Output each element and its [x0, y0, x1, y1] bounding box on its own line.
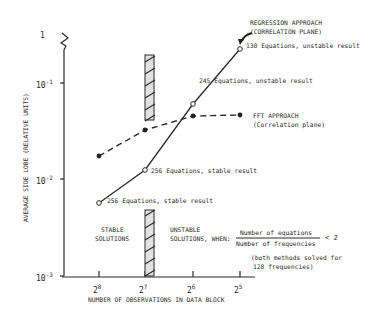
y-tick-1e-3: 10-3	[36, 271, 53, 283]
note-line-2: 128 frequencies)	[253, 263, 314, 271]
note-line-1: (both methods solved for	[251, 254, 342, 261]
fraction-comparison: < 2	[325, 234, 338, 242]
unstable-label-1: UNSTABLE	[170, 226, 201, 233]
stable-label-1: STABLE	[101, 226, 124, 233]
unstable-label-2: SOLUTIONS, WHEN:	[170, 235, 231, 242]
x-tick-2-5: 25	[234, 283, 243, 295]
annotation-130: 130 Equations, unstable result	[246, 42, 360, 50]
y-tick-1e-2: 10-2	[36, 174, 53, 186]
annotation-256-a: 256 Equations, stable result	[151, 167, 257, 175]
y-tick-1e-1: 10-1	[36, 78, 53, 90]
stable-label-2: SOLUTIONS	[95, 235, 129, 242]
fft-label-1: FFT APPROACH	[253, 112, 299, 119]
x-axis	[62, 271, 255, 277]
fft-label-2: (Correlation plane)	[253, 121, 325, 129]
x-tick-2-8: 28	[93, 283, 102, 295]
series-regression	[97, 47, 243, 206]
chart: 1 10-1 10-2 10-3 28 27 26 25 NUMBER OF O…	[0, 0, 380, 319]
x-tick-2-7: 27	[139, 283, 148, 295]
x-axis-label: NUMBER OF OBSERVATIONS IN DATA BLOCK	[88, 296, 225, 303]
regression-label-1: REGRESSION APPROACH	[250, 19, 322, 26]
annotation-256-b: 256 Equations, stable result	[107, 197, 213, 205]
fraction-denominator: Number of frequencies	[236, 240, 316, 248]
regression-label-2: (CORRELATION PLANE)	[250, 28, 322, 35]
y-axis-label: AVERAGE SIDE LOBE (RELATIVE UNITS)	[22, 93, 29, 222]
fraction-numerator: Number of equations	[240, 229, 312, 237]
boundary-hatch-lower	[145, 210, 155, 276]
boundary-hatch-upper	[145, 55, 155, 121]
x-tick-2-6: 26	[187, 283, 196, 295]
y-tick-1: 1	[40, 31, 45, 40]
annotation-245: 245 Equations, unstable result	[199, 77, 313, 85]
y-axis	[60, 33, 68, 276]
